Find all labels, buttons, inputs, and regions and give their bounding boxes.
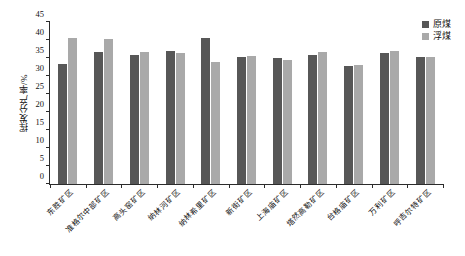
x-axis-label: 东胜矿区 — [44, 186, 75, 217]
bar-group — [201, 22, 220, 184]
bar-浮煤 — [354, 65, 363, 184]
x-axis-label: 新街矿区 — [223, 186, 254, 217]
bar-group — [344, 22, 363, 184]
y-tick-label: 45 — [36, 9, 45, 18]
legend-label: 浮煤 — [433, 32, 451, 41]
legend-swatch-icon — [422, 21, 429, 28]
bar-chart-figure: 挥发分产率/% 051015202530354045 东胜矿区准格尔中部矿区高头… — [0, 0, 465, 256]
bar-浮煤 — [140, 52, 149, 184]
bar-原煤 — [344, 66, 353, 184]
bar-原煤 — [166, 51, 175, 184]
legend: 原煤浮煤 — [422, 20, 451, 41]
x-axis-label: 万利矿区 — [366, 186, 397, 217]
y-tick-label: 35 — [36, 45, 45, 54]
y-axis-title: 挥发分产率/% — [16, 48, 30, 158]
x-axis-label: 纳林希里矿区 — [175, 186, 218, 229]
bar-浮煤 — [247, 56, 256, 184]
bar-group — [130, 22, 149, 184]
bar-原煤 — [201, 38, 210, 184]
bar-原煤 — [130, 55, 139, 184]
bar-浮煤 — [390, 51, 399, 184]
bar-浮煤 — [283, 60, 292, 184]
bar-原煤 — [273, 58, 282, 184]
plot-area: 051015202530354045 — [49, 22, 443, 185]
bar-原煤 — [380, 53, 389, 184]
y-tick-label: 10 — [36, 135, 45, 144]
x-axis-label: 台格庙矿区 — [324, 186, 361, 223]
bar-group — [308, 22, 327, 184]
y-tick-label: 20 — [36, 99, 45, 108]
x-axis-label: 呼吉尔特矿区 — [390, 186, 433, 229]
x-axis-label: 上海庙矿区 — [253, 186, 290, 223]
x-axis-labels: 东胜矿区准格尔中部矿区高头窑矿区纳林河矿区纳林希里矿区新街矿区上海庙矿区塔然高勒… — [49, 186, 443, 252]
bar-group — [237, 22, 256, 184]
bar-group — [416, 22, 435, 184]
y-tick-label: 5 — [40, 153, 44, 162]
bar-groups — [50, 22, 443, 184]
bar-原煤 — [416, 57, 425, 184]
bar-group — [166, 22, 185, 184]
bar-浮煤 — [176, 53, 185, 184]
bar-原煤 — [58, 64, 67, 184]
y-tick-label: 25 — [36, 81, 45, 90]
legend-label: 原煤 — [433, 20, 451, 29]
y-tick-label: 0 — [40, 171, 44, 180]
x-tick-mark — [443, 184, 444, 188]
bar-group — [94, 22, 113, 184]
bar-浮煤 — [426, 57, 435, 184]
bar-原煤 — [308, 55, 317, 184]
bar-浮煤 — [211, 62, 220, 184]
legend-item: 原煤 — [422, 20, 451, 29]
bar-原煤 — [237, 57, 246, 184]
bar-group — [58, 22, 77, 184]
bar-浮煤 — [68, 38, 77, 184]
x-axis-label: 纳林河矿区 — [145, 186, 182, 223]
bar-group — [380, 22, 399, 184]
bar-浮煤 — [318, 52, 327, 184]
bar-group — [273, 22, 292, 184]
bar-浮煤 — [104, 39, 113, 184]
y-tick-label: 30 — [36, 63, 45, 72]
legend-swatch-icon — [422, 33, 429, 40]
legend-item: 浮煤 — [422, 32, 451, 41]
x-axis-label: 高头窑矿区 — [110, 186, 147, 223]
bar-原煤 — [94, 52, 103, 184]
y-tick-label: 15 — [36, 117, 45, 126]
y-tick-label: 40 — [36, 27, 45, 36]
